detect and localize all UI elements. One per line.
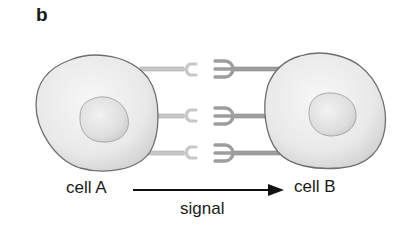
ligand-top bbox=[140, 64, 196, 75]
cell-signaling-diagram bbox=[0, 0, 409, 231]
cell-b-label: cell B bbox=[294, 177, 336, 197]
signal-label: signal bbox=[180, 199, 224, 219]
receptor-top bbox=[215, 61, 282, 77]
receptor-middle bbox=[215, 108, 266, 124]
receptor-bottom bbox=[215, 145, 280, 161]
ligand-middle bbox=[153, 110, 196, 121]
cell-b bbox=[265, 53, 386, 168]
nucleus-b bbox=[309, 93, 356, 136]
signal-arrow bbox=[133, 184, 284, 196]
cell-a-label: cell A bbox=[66, 178, 107, 198]
cell-a bbox=[36, 55, 158, 171]
